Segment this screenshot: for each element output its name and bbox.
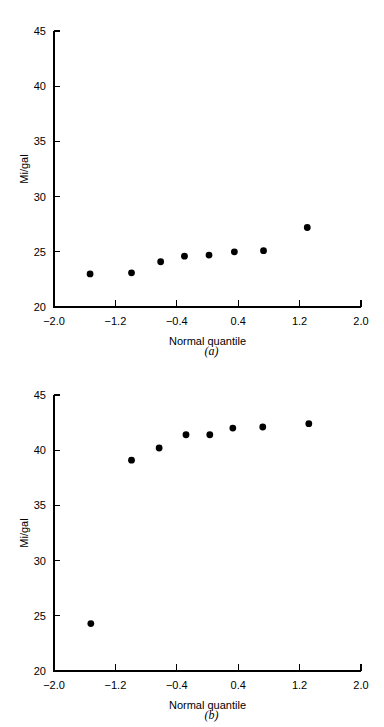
data-point	[128, 457, 135, 464]
x-tick-label: −0.4	[166, 679, 188, 691]
normal-quantile-plot-a: 202530354045−2.0−1.2−0.40.41.22.0Normal …	[0, 0, 384, 363]
x-tick-label: −0.4	[166, 315, 188, 327]
data-point	[260, 247, 267, 254]
y-tick-label: 25	[34, 610, 46, 622]
x-tick-label: −2.0	[43, 679, 65, 691]
data-point	[231, 248, 238, 255]
y-tick-label: 30	[34, 555, 46, 567]
y-tick-label: 20	[34, 665, 46, 677]
plot-area-a: 202530354045−2.0−1.2−0.40.41.22.0Normal …	[0, 0, 384, 363]
axis-spine	[54, 31, 361, 307]
y-tick-label: 40	[34, 444, 46, 456]
y-tick-label: 20	[34, 301, 46, 313]
x-tick-label: 1.2	[292, 679, 307, 691]
data-series	[87, 224, 311, 277]
panel-caption: (b)	[205, 708, 219, 722]
x-tick-label: 0.4	[231, 315, 246, 327]
x-tick-label: 0.4	[231, 679, 246, 691]
data-point	[305, 420, 312, 427]
x-tick-label: 1.2	[292, 315, 307, 327]
data-point	[259, 424, 266, 431]
y-tick-label: 45	[34, 25, 46, 37]
x-tick-label: 2.0	[353, 315, 368, 327]
x-tick-label: 2.0	[353, 679, 368, 691]
y-tick-label: 40	[34, 80, 46, 92]
normal-quantile-plot-b: 202530354045−2.0−1.2−0.40.41.22.0Normal …	[0, 364, 384, 727]
data-point	[156, 445, 163, 452]
data-series	[87, 420, 312, 627]
data-point	[183, 431, 190, 438]
x-tick-label: −2.0	[43, 315, 65, 327]
data-point	[157, 258, 164, 265]
y-axis-title: Mi/gal	[18, 518, 30, 547]
y-tick-label: 45	[34, 389, 46, 401]
data-point	[304, 224, 311, 231]
y-tick-label: 35	[34, 135, 46, 147]
data-point	[206, 252, 213, 259]
y-axis-title: Mi/gal	[18, 154, 30, 183]
data-point	[128, 269, 135, 276]
y-tick-label: 30	[34, 191, 46, 203]
panel-caption: (a)	[205, 344, 219, 358]
y-tick-label: 25	[34, 246, 46, 258]
data-point	[87, 270, 94, 277]
plot-area-b: 202530354045−2.0−1.2−0.40.41.22.0Normal …	[0, 364, 384, 727]
data-point	[206, 431, 213, 438]
data-point	[229, 425, 236, 432]
x-tick-label: −1.2	[105, 679, 127, 691]
y-tick-label: 35	[34, 499, 46, 511]
data-point	[87, 620, 94, 627]
data-point	[181, 253, 188, 260]
x-tick-label: −1.2	[105, 315, 127, 327]
